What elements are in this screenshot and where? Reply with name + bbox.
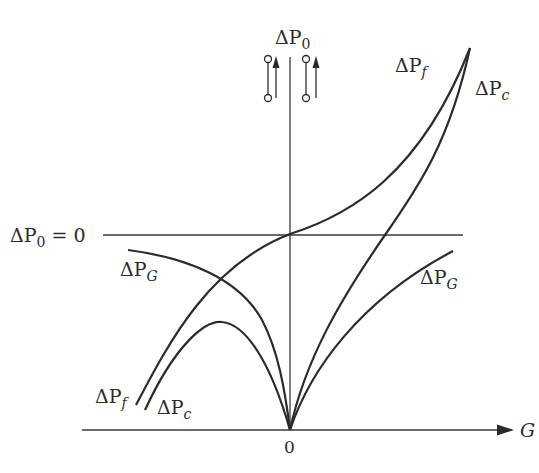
g-axis-label: G [520, 419, 535, 441]
label-pg-left: ΔPG [120, 258, 158, 284]
diagram-canvas: ΔP0 ΔP0 = 0 G 0 ΔPf ΔPc ΔPG ΔPG ΔPf ΔPc [0, 0, 539, 473]
label-pc-right: ΔPc [475, 77, 510, 103]
g-axis-arrow-icon [497, 425, 514, 436]
dp0-axis-label: ΔP0 [275, 26, 310, 52]
valve-arrow-up-left-icon [265, 56, 280, 102]
curve-dpf [136, 48, 470, 405]
label-pf-left: ΔPf [95, 385, 130, 411]
origin-label: 0 [284, 437, 295, 457]
valve-arrow-up-right-icon [303, 56, 320, 102]
label-pg-right: ΔPG [420, 266, 458, 292]
label-pf-right: ΔPf [395, 54, 430, 80]
zero-line-label: ΔP0 = 0 [10, 224, 86, 250]
label-pc-left: ΔPc [157, 396, 192, 422]
